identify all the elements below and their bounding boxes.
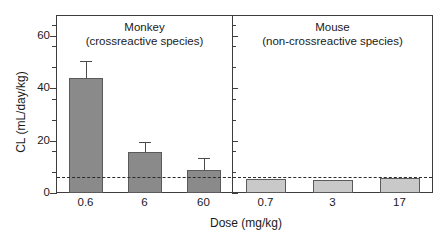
x-tick-label-monkey-60: 60 bbox=[176, 196, 232, 208]
panel-monkey-title-line2: (crossreactive species) bbox=[56, 34, 233, 48]
bar-mouse-3 bbox=[313, 180, 353, 193]
x-tick-label-mouse-3: 3 bbox=[305, 196, 361, 208]
error-bar-stem-monkey-60 bbox=[204, 158, 205, 170]
panel-mouse-title: Mouse (non-crossreactive species) bbox=[232, 20, 433, 48]
x-tick-label-monkey-6: 6 bbox=[117, 196, 173, 208]
y-tick-label: 40 bbox=[24, 81, 50, 93]
error-bar-cap-monkey-60 bbox=[198, 158, 210, 159]
error-bar-cap-monkey-0.6 bbox=[80, 61, 92, 62]
reference-line bbox=[57, 177, 432, 178]
panel-mouse-title-line1: Mouse bbox=[232, 20, 433, 34]
error-bar-stem-monkey-6 bbox=[145, 142, 146, 152]
y-tick-label: 60 bbox=[24, 29, 50, 41]
x-tick-label-mouse-17: 17 bbox=[372, 196, 428, 208]
error-bar-cap-monkey-6 bbox=[139, 142, 151, 143]
panel-mouse-title-line2: (non-crossreactive species) bbox=[232, 34, 433, 48]
bar-monkey-6 bbox=[128, 152, 162, 193]
panel-monkey-title: Monkey (crossreactive species) bbox=[56, 20, 233, 48]
x-tick-label-mouse-0.7: 0.7 bbox=[238, 196, 294, 208]
bar-monkey-60 bbox=[187, 170, 221, 193]
y-axis-label: CL (mL/day/kg) bbox=[14, 22, 30, 202]
y-tick-mark-inner bbox=[232, 193, 238, 194]
x-axis-label: Dose (mg/kg) bbox=[56, 216, 436, 230]
bar-mouse-17 bbox=[380, 178, 420, 193]
clearance-dose-bar-chart: CL (mL/day/kg) 0204060 Monkey (crossreac… bbox=[0, 0, 445, 237]
error-bar-stem-monkey-0.6 bbox=[86, 61, 87, 79]
y-tick-mark bbox=[50, 193, 57, 194]
panel-monkey-title-line1: Monkey bbox=[56, 20, 233, 34]
bar-monkey-0.6 bbox=[69, 78, 103, 193]
x-tick-label-monkey-0.6: 0.6 bbox=[58, 196, 114, 208]
y-tick-label: 0 bbox=[24, 186, 50, 198]
bar-mouse-0.7 bbox=[246, 179, 286, 193]
y-tick-label: 20 bbox=[24, 134, 50, 146]
